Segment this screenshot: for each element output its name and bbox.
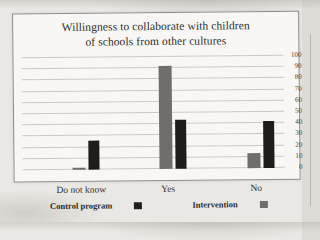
- y-tick-label: 100: [285, 51, 301, 59]
- scan-page-edge-line: [310, 34, 311, 206]
- x-axis-label-yes: Yes: [125, 183, 212, 194]
- y-tick-label: 0: [287, 163, 303, 171]
- chart-title: Willingness to collaborate with children…: [13, 18, 298, 50]
- legend-item-intervention: Intervention: [192, 199, 267, 210]
- y-tick-label: 60: [286, 96, 302, 104]
- legend-swatch-intervention: [260, 200, 268, 207]
- x-axis-label-no: No: [213, 183, 300, 194]
- bar-control-program-yes: [175, 120, 186, 169]
- legend-label-control-program: Control program: [50, 200, 112, 211]
- legend-swatch-control-program: [134, 202, 142, 209]
- legend-label-intervention: Intervention: [192, 199, 237, 209]
- y-tick-label: 40: [286, 118, 302, 126]
- y-tick-label: 10: [286, 152, 302, 160]
- y-axis: 0102030405060708090100: [285, 55, 310, 168]
- x-axis-labels: Do not knowYesNo: [23, 183, 285, 199]
- y-tick-label: 70: [286, 85, 302, 93]
- chart-title-line-2: of schools from other cultures: [13, 32, 298, 49]
- chart-area: Willingness to collaborate with children…: [12, 11, 301, 183]
- y-tick-label: 50: [286, 107, 302, 115]
- legend: Control programIntervention: [1, 198, 316, 211]
- bar-control-program-do-not-know: [88, 141, 99, 170]
- x-axis-label-do-not-know: Do not know: [38, 184, 125, 195]
- bar-intervention-do-not-know: [73, 168, 86, 170]
- y-tick-label: 80: [286, 73, 302, 81]
- bar-group-do-not-know: [41, 56, 129, 170]
- y-tick-label: 20: [286, 141, 302, 149]
- bar-control-program-no: [263, 121, 274, 168]
- bar-group-yes: [128, 55, 216, 169]
- y-tick-label: 30: [286, 129, 302, 137]
- scanned-chart-figure: Willingness to collaborate with children…: [0, 0, 316, 222]
- legend-item-control-program: Control program: [50, 200, 142, 211]
- bar-intervention-yes: [159, 66, 173, 169]
- bar-intervention-no: [247, 153, 260, 168]
- y-tick-label: 90: [286, 62, 302, 70]
- plot-area: [21, 55, 284, 171]
